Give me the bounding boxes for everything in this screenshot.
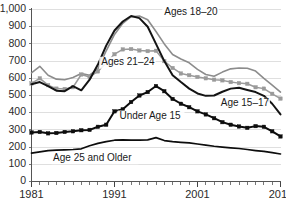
data-point-marker — [171, 66, 175, 70]
y-tick-label-500: 500 — [8, 88, 26, 100]
y-tick-label-200: 200 — [8, 140, 26, 152]
data-point-marker — [196, 75, 200, 79]
data-point-marker — [138, 94, 142, 98]
annotation-ages-18-20: Ages 18–20 — [162, 6, 219, 18]
data-point-marker — [279, 135, 283, 139]
series-ages-18-20 — [32, 16, 281, 92]
annotation-label: Under Age 15 — [119, 110, 181, 121]
data-point-marker — [71, 130, 75, 134]
data-point-marker — [80, 128, 84, 132]
annotation-label: Age 15–17 — [221, 97, 270, 108]
data-point-marker — [55, 131, 59, 135]
annotation-label: Ages 18–20 — [164, 6, 218, 17]
y-tick-label-1000: 1,000 — [0, 2, 26, 14]
data-point-marker — [30, 131, 34, 135]
y-tick-label-400: 400 — [8, 105, 26, 117]
y-tick-label-800: 800 — [8, 37, 26, 49]
y-tick-label-0: 0 — [20, 174, 26, 186]
data-point-marker — [121, 48, 125, 52]
data-point-marker — [187, 73, 191, 77]
data-point-marker — [221, 79, 225, 83]
data-point-marker — [96, 125, 100, 129]
data-point-marker — [246, 82, 250, 86]
series-line — [32, 49, 281, 99]
data-point-marker — [212, 116, 216, 120]
data-point-marker — [196, 110, 200, 114]
y-tick-labels-group: 01002003004005006007008009001,000 — [0, 2, 26, 186]
data-point-marker — [254, 85, 258, 89]
chart-container: 01002003004005006007008009001,000 198119… — [0, 0, 286, 214]
x-tick-labels-group: 1981199120012011 — [19, 188, 286, 200]
y-tick-label-600: 600 — [8, 71, 26, 83]
data-point-marker — [88, 128, 92, 132]
data-point-marker — [262, 87, 266, 91]
annotation-label: Ages 21–24 — [101, 56, 155, 67]
data-point-marker — [38, 130, 42, 134]
data-point-marker — [229, 80, 233, 84]
y-axis-group — [29, 8, 32, 182]
y-tick-label-300: 300 — [8, 123, 26, 135]
data-point-marker — [262, 125, 266, 129]
data-point-marker — [270, 130, 274, 134]
y-tick-label-700: 700 — [8, 54, 26, 66]
data-point-marker — [113, 52, 117, 56]
data-point-marker — [38, 77, 42, 81]
x-tick-label-1991: 1991 — [102, 188, 126, 200]
data-point-marker — [179, 72, 183, 76]
y-tick-label-100: 100 — [8, 157, 26, 169]
data-point-marker — [163, 89, 167, 93]
data-point-marker — [63, 130, 66, 134]
x-tick-label-2001: 2001 — [185, 188, 209, 200]
annotation-label: Age 25 and Older — [53, 152, 132, 163]
x-axis-group — [32, 182, 281, 187]
annotation-under-age-15: Under Age 15 — [117, 110, 184, 122]
data-point-marker — [237, 81, 241, 85]
data-point-marker — [187, 105, 191, 109]
data-point-marker — [80, 73, 84, 77]
data-point-marker — [104, 123, 108, 127]
y-tick-label-900: 900 — [8, 19, 26, 31]
data-point-marker — [171, 97, 175, 101]
data-point-marker — [113, 110, 117, 114]
data-point-marker — [221, 120, 225, 124]
data-point-marker — [237, 125, 241, 128]
data-point-marker — [204, 113, 208, 117]
annotation-age-25-and-older: Age 25 and Older — [51, 152, 139, 164]
data-point-marker — [229, 123, 233, 127]
x-tick-label-1981: 1981 — [19, 188, 43, 200]
data-point-marker — [279, 97, 283, 101]
data-point-marker — [146, 49, 150, 53]
annotation-ages-21-24: Ages 21–24 — [99, 56, 156, 68]
data-point-marker — [212, 78, 216, 82]
x-tick-label-2011: 2011 — [269, 188, 286, 200]
data-point-marker — [46, 132, 50, 136]
data-point-marker — [154, 84, 158, 88]
data-point-marker — [254, 124, 258, 128]
line-chart: 01002003004005006007008009001,000 198119… — [0, 0, 286, 214]
series-line — [32, 16, 281, 92]
data-point-marker — [138, 49, 142, 53]
data-point-marker — [129, 100, 133, 104]
data-point-marker — [96, 70, 100, 74]
data-point-marker — [179, 102, 183, 106]
data-point-marker — [270, 92, 274, 96]
data-point-marker — [154, 49, 158, 53]
data-point-marker — [204, 77, 208, 81]
data-point-marker — [129, 47, 133, 51]
data-point-marker — [246, 126, 250, 130]
data-point-marker — [146, 90, 150, 94]
series-group — [30, 16, 283, 154]
annotation-age-15-17: Age 15–17 — [219, 97, 270, 109]
series-ages-21-24 — [30, 47, 283, 100]
